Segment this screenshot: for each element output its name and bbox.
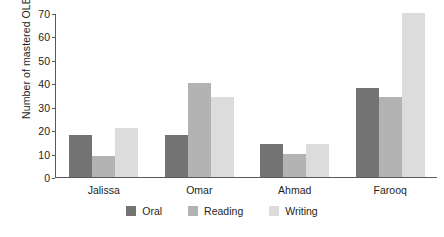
bar-writing-omar bbox=[211, 97, 234, 177]
bars-layer bbox=[56, 14, 437, 177]
bar-chart: Number of mastered OLB 010203040506070 J… bbox=[0, 0, 444, 237]
bar-reading-farooq bbox=[379, 97, 402, 177]
y-axis-title: Number of mastered OLB bbox=[20, 0, 32, 138]
legend-swatch-reading bbox=[188, 206, 198, 216]
legend-label-oral: Oral bbox=[142, 205, 162, 217]
chart-legend: OralReadingWriting bbox=[0, 205, 444, 217]
x-axis-label-omar: Omar bbox=[186, 184, 212, 196]
bar-reading-ahmad bbox=[283, 154, 306, 177]
y-tick-mark bbox=[52, 155, 55, 156]
y-tick-mark bbox=[52, 108, 55, 109]
bar-writing-jalissa bbox=[115, 128, 138, 177]
y-tick-mark bbox=[52, 37, 55, 38]
legend-label-reading: Reading bbox=[204, 205, 243, 217]
x-axis-label-jalissa: Jalissa bbox=[88, 184, 120, 196]
bar-oral-omar bbox=[165, 135, 188, 177]
y-tick-mark bbox=[52, 178, 55, 179]
y-tick-label: 30 bbox=[38, 102, 50, 114]
bar-writing-ahmad bbox=[306, 144, 329, 177]
legend-swatch-writing bbox=[269, 206, 279, 216]
x-axis-label-ahmad: Ahmad bbox=[278, 184, 311, 196]
x-axis-line bbox=[55, 177, 437, 178]
y-tick-label: 40 bbox=[38, 78, 50, 90]
y-tick-label: 10 bbox=[38, 149, 50, 161]
bar-reading-jalissa bbox=[92, 156, 115, 177]
y-tick-label: 50 bbox=[38, 55, 50, 67]
bar-group bbox=[356, 14, 425, 177]
y-tick-label: 20 bbox=[38, 125, 50, 137]
y-tick-mark bbox=[52, 61, 55, 62]
y-tick-label: 0 bbox=[44, 172, 50, 184]
bar-oral-farooq bbox=[356, 88, 379, 177]
bar-writing-farooq bbox=[402, 13, 425, 177]
legend-item-reading: Reading bbox=[188, 205, 243, 217]
legend-item-writing: Writing bbox=[269, 205, 317, 217]
y-tick-label: 60 bbox=[38, 31, 50, 43]
bar-group bbox=[260, 14, 329, 177]
y-tick-label: 70 bbox=[38, 8, 50, 20]
bar-group bbox=[165, 14, 234, 177]
legend-swatch-oral bbox=[126, 206, 136, 216]
y-tick-mark bbox=[52, 14, 55, 15]
y-tick-mark bbox=[52, 131, 55, 132]
bar-group bbox=[69, 14, 138, 177]
bar-reading-omar bbox=[188, 83, 211, 177]
x-axis-label-farooq: Farooq bbox=[374, 184, 407, 196]
bar-oral-jalissa bbox=[69, 135, 92, 177]
bar-oral-ahmad bbox=[260, 144, 283, 177]
y-tick-mark bbox=[52, 84, 55, 85]
plot-area: 010203040506070 bbox=[55, 14, 437, 178]
legend-item-oral: Oral bbox=[126, 205, 162, 217]
legend-label-writing: Writing bbox=[285, 205, 317, 217]
